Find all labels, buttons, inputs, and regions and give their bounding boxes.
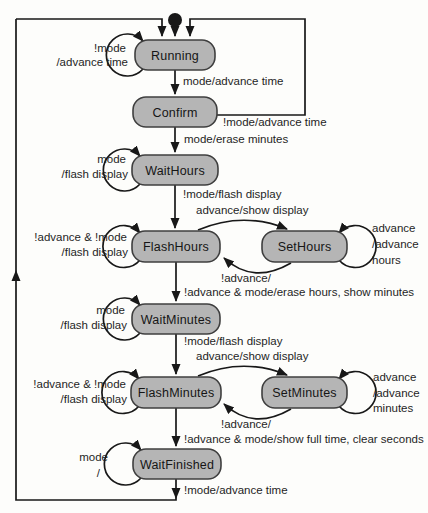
label-waitminutes-self-2: /flash display xyxy=(61,319,128,331)
label-waitfinished-to-running: !mode/advance time xyxy=(184,484,288,496)
label-confirm-to-running: !mode/advance time xyxy=(223,116,327,128)
state-waitminutes: WaitMinutes xyxy=(132,304,220,334)
label-flashminutes-to-setminutes: advance/show display xyxy=(196,350,309,362)
statechart-diagram: Running Confirm WaitHours FlashHours Set… xyxy=(0,0,428,513)
label-setminutes-self-2: /advance xyxy=(373,387,420,399)
state-flashminutes-label: FlashMinutes xyxy=(138,386,215,400)
state-sethours-label: SetHours xyxy=(278,240,332,254)
label-setminutes-self-1: advance xyxy=(373,371,416,383)
state-flashminutes: FlashMinutes xyxy=(131,377,221,408)
label-sethours-self-2: /advance xyxy=(372,238,419,250)
transition-flashhours-to-sethours-path xyxy=(198,220,287,230)
statechart-canvas: Running Confirm WaitHours FlashHours Set… xyxy=(0,0,428,513)
transition-left-entry-running-path xyxy=(16,19,162,36)
label-setminutes-self-3: minutes xyxy=(373,402,414,414)
label-flashminutes-to-waitfinished: !advance & mode/show full time, clear se… xyxy=(184,433,424,445)
state-confirm: Confirm xyxy=(133,97,217,127)
label-sethours-to-flashhours: !advance/ xyxy=(221,272,272,284)
state-running: Running xyxy=(135,40,215,70)
label-waitfinished-self-1: mode xyxy=(79,451,108,463)
state-flashhours: FlashHours xyxy=(132,231,220,262)
label-waitminutes-to-flashminutes: !mode/flash display xyxy=(184,335,283,347)
label-running-to-confirm: mode/advance time xyxy=(183,75,283,87)
state-waithours-label: WaitHours xyxy=(145,164,205,178)
label-flashhours-to-waitminutes: !advance & mode/erase hours, show minute… xyxy=(184,286,414,298)
label-flashminutes-self-1: !advance & !mode xyxy=(33,378,126,390)
state-waithours: WaitHours xyxy=(132,155,218,185)
state-waitfinished-label: WaitFinished xyxy=(140,458,214,472)
label-waithours-self-1: mode xyxy=(97,153,126,165)
label-waitminutes-self-1: mode xyxy=(96,304,125,316)
label-flashhours-self-1: !advance & !mode xyxy=(34,231,127,243)
state-running-label: Running xyxy=(151,49,199,63)
label-setminutes-to-flashminutes: !advance/ xyxy=(221,418,272,430)
label-running-self-1: !mode xyxy=(94,42,126,54)
label-flashhours-self-2: /flash display xyxy=(62,246,129,258)
label-sethours-self-1: advance xyxy=(372,222,415,234)
label-confirm-to-waithours: mode/erase minutes xyxy=(184,133,288,145)
state-setminutes-label: SetMinutes xyxy=(272,386,337,400)
state-waitfinished: WaitFinished xyxy=(133,449,221,479)
direction-arrowhead-down-icon xyxy=(172,488,181,499)
label-flashminutes-self-2: /flash display xyxy=(61,393,128,405)
state-sethours: SetHours xyxy=(262,231,347,262)
label-waithours-to-flashhours: !mode/flash display xyxy=(183,188,282,200)
label-flashhours-to-sethours: advance/show display xyxy=(196,204,309,216)
transition-flashminutes-to-setminutes-path xyxy=(198,366,287,376)
label-running-self-2: /advance time xyxy=(56,56,128,68)
label-waithours-self-2: /flash display xyxy=(62,168,129,180)
initial-state-dot xyxy=(168,13,182,27)
state-flashhours-label: FlashHours xyxy=(143,240,209,254)
label-waitfinished-self-2: / xyxy=(97,467,101,479)
direction-arrowhead-up-icon xyxy=(12,270,21,281)
label-sethours-self-3: hours xyxy=(372,254,401,266)
state-setminutes: SetMinutes xyxy=(262,377,347,408)
state-confirm-label: Confirm xyxy=(152,106,197,120)
state-waitminutes-label: WaitMinutes xyxy=(141,313,212,327)
